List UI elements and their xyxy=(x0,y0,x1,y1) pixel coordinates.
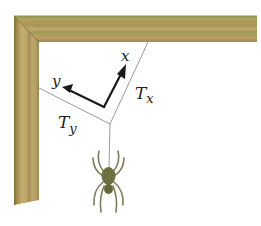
spider-cephalothorax xyxy=(104,184,113,194)
coordinate-axes xyxy=(69,72,122,107)
tension-y-label: Ty xyxy=(58,112,77,136)
wall-post xyxy=(14,16,39,205)
spider-icon xyxy=(93,151,124,212)
spider-abdomen xyxy=(102,167,116,185)
x-axis-line xyxy=(104,72,122,107)
y-axis-line xyxy=(69,90,104,107)
x-axis-label: x xyxy=(121,47,130,65)
strands xyxy=(39,42,148,168)
tension-x-subscript: x xyxy=(146,91,154,106)
wooden-frame xyxy=(14,16,257,205)
tension-y-subscript: y xyxy=(68,121,77,136)
spider-thread xyxy=(109,124,110,168)
tension-x-label: Tx xyxy=(135,83,154,106)
spider-tension-diagram: x y Tx Ty xyxy=(0,0,261,226)
ceiling-beam xyxy=(14,16,257,42)
y-axis-label: y xyxy=(51,72,61,90)
